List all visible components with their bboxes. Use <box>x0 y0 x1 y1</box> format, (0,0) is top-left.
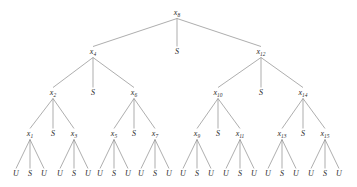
tree-node-u-l5u: U <box>97 170 103 178</box>
tree-node-x14: x14 <box>299 89 308 97</box>
tree-edge <box>268 140 282 169</box>
node-label-text: U <box>166 169 172 178</box>
tree-edge <box>134 99 155 129</box>
node-label-text: S <box>28 169 32 178</box>
node-label-text: U <box>208 169 214 178</box>
node-label-text: U <box>57 169 63 178</box>
tree-node-u-l9u: U <box>180 170 186 178</box>
tree-edge <box>100 140 114 169</box>
node-label-text: S <box>238 169 242 178</box>
tree-diagram-canvas: x8x4Sx12x2Sx6x10Sx14x1Sx3x5Sx7x9Sx11x13S… <box>0 0 357 187</box>
tree-node-s-s14: S <box>301 130 305 138</box>
tree-edge <box>218 58 261 88</box>
node-label-text: S <box>112 169 116 178</box>
tree-edge <box>74 140 88 169</box>
tree-edge <box>93 58 134 88</box>
tree-node-x9: x9 <box>194 130 200 138</box>
tree-edge <box>183 140 197 169</box>
node-label-text: U <box>251 169 257 178</box>
node-label-subscript: 12 <box>260 51 265 57</box>
tree-node-x8: x8 <box>174 9 180 17</box>
tree-node-s-l9s: S <box>195 170 199 178</box>
tree-node-u-l13r: U <box>293 170 299 178</box>
node-label-subscript: 5 <box>114 133 117 139</box>
node-label-text: U <box>180 169 186 178</box>
node-label-subscript: 4 <box>93 51 96 57</box>
tree-node-x4: x4 <box>90 48 96 56</box>
node-label-text: S <box>72 169 76 178</box>
tree-node-u-l13u: U <box>265 170 271 178</box>
tree-node-s-s12: S <box>259 89 263 97</box>
tree-node-x12: x12 <box>257 48 266 56</box>
tree-node-x3: x3 <box>71 130 77 138</box>
node-label-text: U <box>125 169 131 178</box>
tree-node-s-l1s: S <box>28 170 32 178</box>
node-label-subscript: 10 <box>217 92 222 98</box>
node-label-text: U <box>336 169 342 178</box>
node-label-text: S <box>91 88 95 97</box>
tree-edge <box>53 99 74 129</box>
tree-edge <box>177 19 261 47</box>
tree-node-s-s8: S <box>175 48 179 56</box>
node-label-text: U <box>13 169 19 178</box>
tree-node-u-l5r: U <box>125 170 131 178</box>
node-label-text: U <box>85 169 91 178</box>
tree-node-x11: x11 <box>236 130 245 138</box>
node-label-subscript: 6 <box>134 92 137 98</box>
tree-edge <box>60 140 74 169</box>
tree-node-u-l7u: U <box>138 170 144 178</box>
node-label-text: U <box>265 169 271 178</box>
tree-node-s-s2: S <box>51 130 55 138</box>
node-label-text: S <box>153 169 157 178</box>
tree-edge <box>114 99 134 129</box>
tree-node-s-l5s: S <box>112 170 116 178</box>
tree-edge <box>282 140 296 169</box>
node-label-text: S <box>323 169 327 178</box>
node-label-subscript: 13 <box>281 133 286 139</box>
tree-node-u-l15u: U <box>308 170 314 178</box>
node-label-text: U <box>293 169 299 178</box>
node-label-text: S <box>259 88 263 97</box>
tree-edge <box>16 140 30 169</box>
tree-node-u-l7r: U <box>166 170 172 178</box>
node-label-text: U <box>308 169 314 178</box>
tree-node-x7: x7 <box>152 130 158 138</box>
tree-node-s-l3s: S <box>72 170 76 178</box>
node-label-text: U <box>41 169 47 178</box>
node-label-text: S <box>132 129 136 138</box>
tree-node-s-s6: S <box>132 130 136 138</box>
node-label-subscript: 3 <box>74 133 77 139</box>
node-label-subscript: 1 <box>30 133 33 139</box>
tree-edge <box>93 19 177 47</box>
tree-node-x6: x6 <box>131 89 137 97</box>
tree-node-x1: x1 <box>27 130 33 138</box>
tree-node-u-l11r: U <box>251 170 257 178</box>
node-label-text: S <box>280 169 284 178</box>
node-label-subscript: 7 <box>155 133 158 139</box>
tree-node-x15: x15 <box>321 130 330 138</box>
node-label-subscript: 8 <box>177 12 180 18</box>
node-label-text: S <box>195 169 199 178</box>
tree-edge <box>303 99 325 129</box>
tree-node-s-l13s: S <box>280 170 284 178</box>
node-label-subscript: 14 <box>302 92 307 98</box>
tree-edge <box>197 140 211 169</box>
node-label-text: S <box>51 129 55 138</box>
tree-edge <box>325 140 339 169</box>
tree-node-x2: x2 <box>50 89 56 97</box>
node-label-text: U <box>97 169 103 178</box>
tree-node-s-s10: S <box>216 130 220 138</box>
tree-node-s-s4: S <box>91 89 95 97</box>
tree-node-s-l15s: S <box>323 170 327 178</box>
tree-edge <box>226 140 240 169</box>
tree-edge <box>30 140 44 169</box>
tree-edge <box>240 140 254 169</box>
node-label-subscript: 15 <box>324 133 329 139</box>
tree-edge <box>141 140 155 169</box>
tree-node-u-l3u: U <box>57 170 63 178</box>
tree-node-s-l11s: S <box>238 170 242 178</box>
tree-edge <box>155 140 169 169</box>
tree-edge <box>282 99 303 129</box>
tree-node-s-l7s: S <box>153 170 157 178</box>
tree-node-x5: x5 <box>111 130 117 138</box>
